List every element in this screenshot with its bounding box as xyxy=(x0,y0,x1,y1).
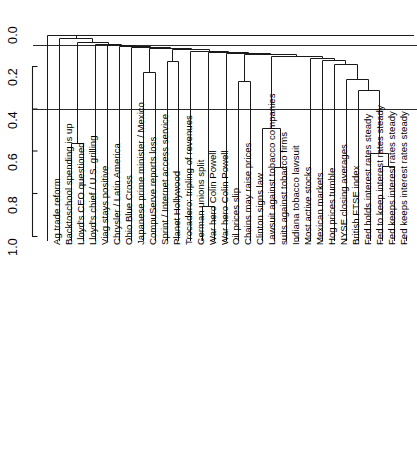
dendrogram-link xyxy=(245,55,297,82)
leaf-label: Fed to keep interest rates steady xyxy=(374,105,385,245)
leaf-label: War hero Colin Powell xyxy=(207,150,218,245)
leaf-label: CompuServe reports loss xyxy=(147,137,158,245)
leaf-label: Lloyd's CEO questioned xyxy=(75,142,86,245)
leaf-label: Ag trade reform xyxy=(51,178,62,245)
leaf-label: British FTSE index xyxy=(350,166,361,245)
y-axis xyxy=(33,67,38,237)
leaf-label: Ohio Blue Cross xyxy=(123,175,134,245)
reference-lines xyxy=(33,46,417,110)
leaf-label: Japanese prime minister / Mexico xyxy=(135,102,146,245)
leaf-label: Backtoschool spending is up xyxy=(63,123,74,245)
leaf-label: suits against tobacco firms xyxy=(278,132,289,245)
leaf-label: War hero Colin Powell xyxy=(219,150,230,245)
leaf-label: Lawsuit against tobacco companies xyxy=(266,94,277,245)
leaf-label: German unions split xyxy=(195,160,206,245)
y-axis-ticks xyxy=(33,67,38,237)
leaf-label: Chrysler / Latin America xyxy=(111,143,122,245)
leaf-label: Trocadero: tripling of revenues xyxy=(183,115,194,245)
leaf-label: Sprint / Internet access service xyxy=(159,114,170,245)
leaf-label: Hog prices tumble xyxy=(326,168,337,245)
leaf-label: Chains may raise prices xyxy=(242,143,253,245)
leaf-label: Oil prices slip xyxy=(230,188,241,245)
leaf-label: Clinton signs law xyxy=(254,173,265,245)
dendrogram-link xyxy=(150,49,192,73)
leaf-label: Lloyd's chief / U.S. grilling xyxy=(87,135,98,245)
leaf-label: Fed holds interest rates steady xyxy=(362,114,373,245)
leaf-label: Planet Hollywood xyxy=(171,171,182,245)
dendrogram-figure: 0.0 0.2 0.4 0.6 0.8 1.0 Ag trade reformB… xyxy=(0,0,417,455)
leaf-label: Viag stays positive xyxy=(99,166,110,245)
leaf-label: Fed keeps interest rates steady xyxy=(398,111,409,245)
dendrogram-link xyxy=(272,57,323,129)
leaf-label: Mexican markets xyxy=(314,172,325,245)
leaf-label: NYSE closing averages xyxy=(338,144,349,245)
leaf-label: Indiana tobacco lawsuit xyxy=(290,145,301,245)
leaf-label: Most active stocks xyxy=(302,167,313,245)
leaf-label: Fed keeps interest rates steady xyxy=(386,111,397,245)
dendrogram-link xyxy=(78,43,109,144)
